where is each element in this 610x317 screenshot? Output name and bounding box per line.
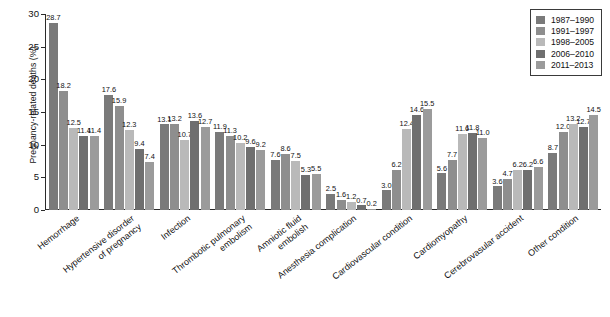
bar [312,174,321,210]
bar-item: 3.0 [382,14,391,210]
bar-value-label: 1.2 [346,193,356,200]
x-axis-labels: HemorrhageHypertensive disorder of pregn… [46,211,601,317]
bar-item: 13.1 [160,14,169,210]
bar-item: 9.6 [246,14,255,210]
bar [125,130,134,210]
bar [468,133,477,210]
bar [49,23,58,211]
y-tick-mark [41,177,45,178]
bar [523,170,532,211]
bar-item: 11.4 [90,14,99,210]
bar [90,136,99,210]
y-tick-label: 25 [15,41,39,52]
y-tick-mark [41,145,45,146]
bar-item: 7.5 [291,14,300,210]
bar-item: 8.6 [281,14,290,210]
bar-item: 13.6 [190,14,199,210]
bar-value-label: 6.6 [533,158,543,165]
bar [478,138,487,210]
bar-value-label: 6.2 [391,161,401,168]
bar [145,162,154,210]
bar-value-label: 3.0 [381,182,391,189]
legend-label: 1998–2005 [551,37,594,47]
bar [423,109,432,210]
bar-value-label: 2.5 [326,185,336,192]
bar [579,127,588,210]
bar-item: 10.2 [236,14,245,210]
bar-value-label: 8.6 [280,145,290,152]
legend-color-swatch [536,38,545,46]
bar [448,160,457,210]
bar-value-label: 9.6 [245,138,255,145]
bar [347,202,356,210]
bar [503,179,512,210]
bar [281,154,290,210]
plot-area: 051015202530 28.718.212.511.411.417.615.… [45,14,601,210]
bar-item: 11.6 [458,14,467,210]
bar-value-label: 12.7 [198,118,212,125]
bar-value-label: 7.5 [291,152,301,159]
legend-label: 2011–2013 [551,60,593,70]
bar-value-label: 14.5 [586,106,600,113]
bar-group: 3.06.212.414.615.5 [379,14,435,210]
bar [326,194,335,210]
y-tick-label: 20 [15,73,39,84]
bar [382,190,391,210]
bar-value-label: 9.4 [134,140,144,147]
bar [271,160,280,210]
bar-value-label: 5.6 [437,165,447,172]
y-tick-mark [41,210,45,211]
bar [437,173,446,210]
bar-item: 12.3 [125,14,134,210]
bar [548,153,557,210]
bar [104,95,113,210]
bar [337,200,346,210]
bar [256,150,265,210]
bar-value-label: 11.0 [476,129,490,136]
bar-value-label: 6.2 [523,161,533,168]
y-tick-label: 10 [15,139,39,150]
bar-value-label: 0.2 [366,200,376,207]
bar [135,149,144,210]
bar [569,124,578,210]
bar [458,134,467,210]
bar [291,161,300,210]
bar-value-label: 11.4 [87,127,101,134]
bar-item: 15.5 [423,14,432,210]
legend-item: 1998–2005 [536,37,594,48]
bar [160,124,169,210]
bar-item: 1.2 [347,14,356,210]
bar [246,147,255,210]
y-tick-label: 15 [15,106,39,117]
y-tick-mark [41,14,45,15]
bar-item: 9.2 [256,14,265,210]
legend-item: 1991–1997 [536,25,594,36]
bar-item: 11.0 [478,14,487,210]
legend-color-swatch [536,27,545,35]
bar [301,175,310,210]
bar-item: 6.2 [392,14,401,210]
bar-group: 13.113.210.713.612.7 [157,14,213,210]
bar-value-label: 7.4 [144,153,154,160]
bar-item: 5.6 [437,14,446,210]
bar-group: 11.911.310.29.69.2 [213,14,269,210]
bar [493,186,502,210]
bar-item: 12.5 [69,14,78,210]
bar [190,121,199,210]
legend-label: 1987–1990 [551,15,594,25]
legend: 1987–19901991–19971998–20052006–20102011… [530,9,602,76]
legend-color-swatch [536,50,545,58]
bar-item: 28.7 [49,14,58,210]
legend-label: 2006–2010 [551,49,594,59]
bar [180,140,189,210]
bar [402,129,411,210]
bar-item: 7.6 [271,14,280,210]
bar [79,136,88,210]
legend-item: 2011–2013 [536,60,594,71]
bar-item: 6.2 [513,14,522,210]
bar-group: 17.615.912.39.47.4 [102,14,158,210]
bar-value-label: 7.6 [270,151,280,158]
bar [513,170,522,211]
bar-item: 11.9 [215,14,224,210]
bar-item: 4.7 [503,14,512,210]
